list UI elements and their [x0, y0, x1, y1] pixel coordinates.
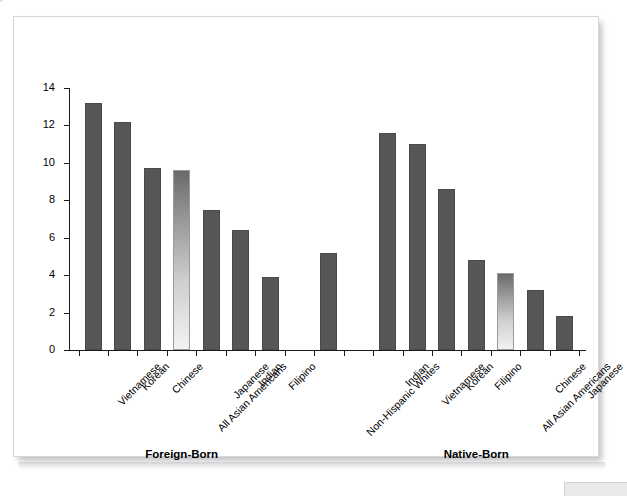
bar: [173, 170, 190, 350]
group-label-native-born: Native-Born: [444, 448, 509, 460]
x-axis-tick: [79, 351, 80, 356]
x-axis-tick: [403, 351, 404, 356]
x-axis-tick: [344, 351, 345, 356]
bar: [114, 122, 131, 350]
x-axis-label: Filipino: [286, 360, 318, 392]
y-axis-tick: 0: [64, 350, 69, 351]
bar: [409, 144, 426, 350]
x-axis-tick: [432, 351, 433, 356]
y-axis-tick-label: 8: [49, 193, 55, 205]
x-axis-tick: [285, 351, 286, 356]
bar: [527, 290, 544, 350]
bar: [379, 133, 396, 350]
y-axis-tick: 8: [64, 200, 69, 201]
x-axis-tick: [373, 351, 374, 356]
y-axis-tick: 2: [64, 313, 69, 314]
y-axis-tick: 14: [64, 88, 69, 89]
x-axis-tick: [461, 351, 462, 356]
x-axis-line: [69, 350, 586, 351]
bar: [85, 103, 102, 350]
x-axis-label: Non-Hispanic Whites: [364, 360, 442, 438]
x-axis-tick: [579, 351, 580, 356]
bar: [144, 168, 161, 350]
x-axis-tick: [137, 351, 138, 356]
y-axis-tick-label: 6: [49, 231, 55, 243]
bar: [497, 273, 514, 350]
bar: [556, 316, 573, 350]
y-axis-tick-label: 4: [49, 268, 55, 280]
y-axis-tick-label: 10: [43, 156, 55, 168]
cut-off-text: p: [0, 0, 6, 2]
x-axis-tick: [491, 351, 492, 356]
x-axis-label: Chinese: [169, 360, 205, 396]
bar: [262, 277, 279, 350]
y-axis-tick: 10: [64, 163, 69, 164]
chart-plot-area: 02468101214 VietnameseKoreanChineseAll A…: [69, 88, 586, 350]
y-axis-tick: 4: [64, 275, 69, 276]
card-drop-shadow: [19, 462, 605, 470]
x-axis-tick: [520, 351, 521, 356]
y-axis-tick-label: 14: [43, 81, 55, 93]
cut-off-text-sliver: p: [0, 0, 627, 9]
x-axis-label: Filipino: [492, 360, 524, 392]
y-axis-tick-label: 12: [43, 118, 55, 130]
y-axis-line: [69, 88, 70, 350]
y-axis-tick: 6: [64, 238, 69, 239]
bar: [468, 260, 485, 350]
bar: [203, 210, 220, 350]
bar: [232, 230, 249, 350]
x-axis-tick: [314, 351, 315, 356]
x-axis-tick: [108, 351, 109, 356]
corner-tab: [564, 482, 627, 496]
y-axis-tick: 12: [64, 125, 69, 126]
x-axis-tick: [196, 351, 197, 356]
x-axis-tick: [226, 351, 227, 356]
x-axis-tick: [167, 351, 168, 356]
figure-card: 02468101214 VietnameseKoreanChineseAll A…: [13, 16, 599, 457]
group-label-foreign-born: Foreign-Born: [145, 448, 218, 460]
bar: [320, 253, 337, 350]
x-axis-tick: [255, 351, 256, 356]
y-axis-tick-label: 0: [49, 343, 55, 355]
page-root: p 02468101214 VietnameseKoreanChineseAll…: [0, 0, 627, 496]
x-axis-tick: [550, 351, 551, 356]
y-axis-tick-label: 2: [49, 306, 55, 318]
bar: [438, 189, 455, 350]
